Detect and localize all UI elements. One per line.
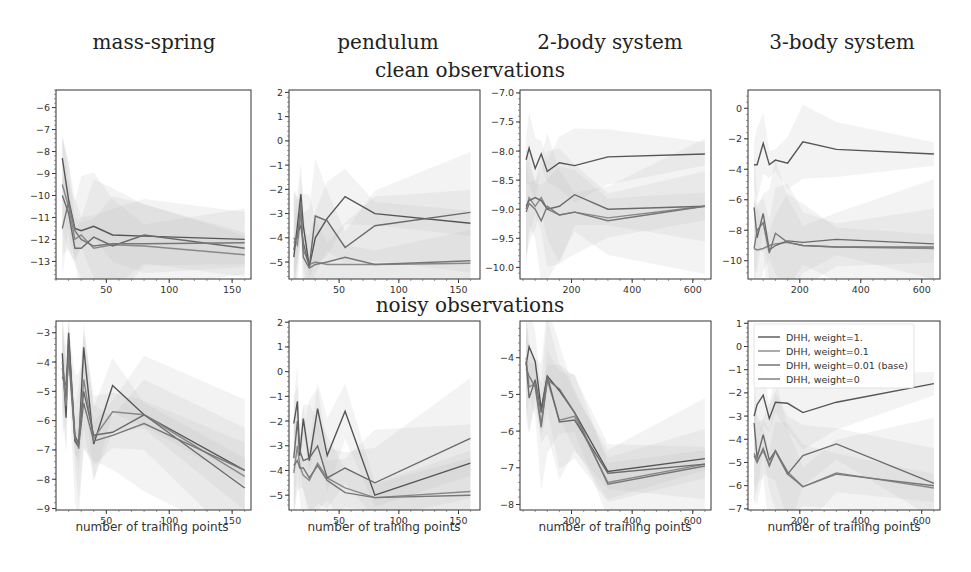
y-tick-label: −3 bbox=[269, 208, 283, 219]
chart-grid: −6−7−8−9−10−11−12−1350100150210−1−2−3−4−… bbox=[0, 0, 971, 572]
y-tick-label: −6 bbox=[36, 102, 50, 113]
y-tick-label: 0 bbox=[736, 341, 742, 352]
y-tick-label: −7 bbox=[36, 124, 50, 135]
legend-label: DHH, weight=0.01 (base) bbox=[786, 360, 908, 371]
y-tick-label: −9 bbox=[36, 168, 50, 179]
y-tick-label: −1 bbox=[728, 364, 742, 375]
legend-label: DHH, weight=0.1 bbox=[786, 346, 869, 357]
subplot-2: 210−1−2−3−4−550100150 bbox=[269, 87, 480, 342]
y-tick-label: −1 bbox=[269, 391, 283, 402]
y-tick-label: −1 bbox=[269, 160, 283, 171]
y-tick-label: −4 bbox=[269, 465, 283, 476]
y-tick-label: −6 bbox=[728, 194, 742, 205]
x-axis-label-1: number of training points bbox=[52, 520, 252, 534]
y-tick-label: −9.0 bbox=[491, 204, 514, 215]
y-tick-label: −9.5 bbox=[491, 233, 514, 244]
legend-label: DHH, weight=0 bbox=[786, 374, 860, 385]
y-tick-label: −4 bbox=[728, 434, 742, 445]
y-tick-label: −3 bbox=[269, 440, 283, 451]
y-tick-label: −8.5 bbox=[491, 175, 514, 186]
y-tick-label: −2 bbox=[269, 184, 283, 195]
y-tick-label: −10 bbox=[722, 255, 742, 266]
y-tick-label: −4 bbox=[728, 164, 742, 175]
y-tick-label: −7 bbox=[500, 462, 514, 473]
confidence-band bbox=[62, 173, 244, 320]
y-tick-label: 0 bbox=[736, 103, 742, 114]
y-tick-label: 0 bbox=[277, 366, 283, 377]
y-tick-label: −8 bbox=[728, 225, 742, 236]
x-tick-label: 150 bbox=[223, 284, 241, 295]
y-tick-label: −10.0 bbox=[485, 262, 514, 273]
x-tick-label: 200 bbox=[791, 284, 809, 295]
x-tick-label: 200 bbox=[562, 284, 580, 295]
y-tick-label: 1 bbox=[736, 318, 742, 329]
x-tick-label: 100 bbox=[390, 284, 408, 295]
y-tick-label: 1 bbox=[277, 341, 283, 352]
x-tick-label: 400 bbox=[852, 284, 870, 295]
x-tick-label: 150 bbox=[449, 284, 467, 295]
confidence-band bbox=[526, 306, 705, 534]
y-tick-label: −5 bbox=[728, 457, 742, 468]
y-tick-label: −4 bbox=[269, 232, 283, 243]
y-tick-label: −5 bbox=[36, 386, 50, 397]
y-tick-label: −8.0 bbox=[491, 146, 514, 157]
y-tick-label: −7.0 bbox=[491, 87, 514, 98]
y-tick-label: −12 bbox=[30, 234, 50, 245]
y-tick-label: −5 bbox=[269, 490, 283, 501]
x-tick-label: 400 bbox=[623, 284, 641, 295]
x-axis-label-3: number of training points bbox=[515, 520, 715, 534]
legend: DHH, weight=1.DHH, weight=0.1DHH, weight… bbox=[754, 324, 914, 388]
y-tick-label: −7 bbox=[36, 444, 50, 455]
subplot-1: −6−7−8−9−10−11−12−1350100150 bbox=[30, 90, 251, 320]
y-tick-label: −5 bbox=[500, 389, 514, 400]
y-tick-label: −7.5 bbox=[491, 116, 514, 127]
y-tick-label: −7 bbox=[728, 503, 742, 514]
y-tick-label: 2 bbox=[277, 87, 283, 98]
y-tick-label: −4 bbox=[36, 357, 50, 368]
legend-label: DHH, weight=1. bbox=[786, 332, 863, 343]
y-tick-label: −10 bbox=[30, 190, 50, 201]
y-tick-label: −9 bbox=[36, 503, 50, 514]
y-tick-label: −2 bbox=[728, 387, 742, 398]
y-tick-label: −6 bbox=[500, 426, 514, 437]
subplot-3: −7.0−7.5−8.0−8.5−9.0−9.5−10.0200400600 bbox=[485, 87, 711, 295]
y-tick-label: −13 bbox=[30, 256, 50, 267]
y-tick-label: −3 bbox=[36, 327, 50, 338]
y-tick-label: −8 bbox=[500, 499, 514, 510]
x-tick-label: 600 bbox=[684, 284, 702, 295]
y-tick-label: −6 bbox=[36, 415, 50, 426]
y-tick-label: −5 bbox=[269, 257, 283, 268]
y-tick-label: −6 bbox=[728, 480, 742, 491]
y-tick-label: 2 bbox=[277, 317, 283, 328]
y-tick-label: 0 bbox=[277, 135, 283, 146]
subplot-7: −4−5−6−7−8200400600 bbox=[500, 301, 711, 534]
x-tick-label: 50 bbox=[333, 284, 345, 295]
y-tick-label: −11 bbox=[30, 212, 50, 223]
y-tick-label: −3 bbox=[728, 411, 742, 422]
y-tick-label: −8 bbox=[36, 146, 50, 157]
y-tick-label: −2 bbox=[269, 416, 283, 427]
y-tick-label: −2 bbox=[728, 133, 742, 144]
x-axis-label-4: number of training points bbox=[744, 520, 944, 534]
y-tick-label: −8 bbox=[36, 474, 50, 485]
x-tick-label: 50 bbox=[100, 284, 112, 295]
x-axis-label-2: number of training points bbox=[284, 520, 484, 534]
x-tick-label: 600 bbox=[913, 284, 931, 295]
x-tick-label: 100 bbox=[160, 284, 178, 295]
subplot-4: 0−2−4−6−8−10200400600 bbox=[722, 90, 940, 316]
y-tick-label: 1 bbox=[277, 111, 283, 122]
y-tick-label: −4 bbox=[500, 352, 514, 363]
subplot-5: −3−4−5−6−7−8−950100150 bbox=[36, 302, 251, 548]
